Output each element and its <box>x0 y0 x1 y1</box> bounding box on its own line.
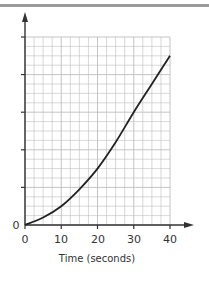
x-tick-label-0: 0 <box>22 233 29 246</box>
chart-axes <box>22 12 194 228</box>
x-axis-arrow-icon <box>184 222 194 228</box>
chart: 0 0 10 20 30 40 Time (seconds) <box>0 0 209 283</box>
y-axis-arrow-icon <box>22 12 28 22</box>
x-tick-label-40: 40 <box>163 233 177 246</box>
x-tick-label-10: 10 <box>54 233 68 246</box>
x-axis-title: Time (seconds) <box>58 253 135 264</box>
chart-grid <box>25 37 170 225</box>
y-tick-label-0: 0 <box>13 219 20 232</box>
x-tick-label-20: 20 <box>91 233 105 246</box>
x-tick-label-30: 30 <box>127 233 141 246</box>
